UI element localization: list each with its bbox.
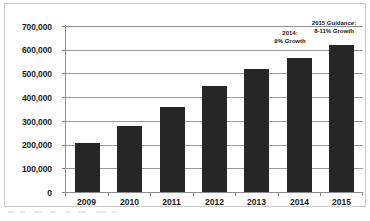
y-axis-label-0: 0 [0, 188, 52, 198]
bar-2015 [329, 45, 354, 193]
scan-artifact [6, 209, 186, 217]
y-tick-300000 [62, 121, 66, 122]
gridline-600000 [66, 50, 363, 51]
annotation-2015-line2: 8-11% Growth [300, 27, 368, 35]
y-axis-label-100000: 100,000 [0, 164, 52, 174]
y-axis-label-700000: 700,000 [0, 22, 52, 32]
x-axis-label-2014: 2014 [278, 197, 321, 207]
x-tick-7 [362, 193, 363, 196]
y-axis-label-500000: 500,000 [0, 69, 52, 79]
y-axis-label-600000: 600,000 [0, 45, 52, 55]
bar-2012 [202, 86, 227, 192]
x-tick-6 [320, 193, 321, 196]
x-axis-label-2011: 2011 [150, 197, 193, 207]
bar-2014 [287, 58, 312, 192]
y-axis-label-400000: 400,000 [0, 93, 52, 103]
annotation-2015-guidance: 2015 Guidance: 8-11% Growth [300, 19, 368, 35]
y-axis-label-200000: 200,000 [0, 140, 52, 150]
y-tick-700000 [62, 26, 66, 27]
x-tick-4 [235, 193, 236, 196]
annotation-2014-line2: 9% Growth [264, 37, 316, 45]
bar-2010 [117, 126, 142, 192]
x-axis-line [65, 192, 363, 193]
annotation-2015-line1: 2015 Guidance: [300, 19, 368, 27]
plot-area [66, 26, 363, 192]
gridline-500000 [66, 73, 363, 74]
x-tick-3 [193, 193, 194, 196]
x-axis-label-2013: 2013 [235, 197, 278, 207]
y-tick-100000 [62, 168, 66, 169]
x-axis-label-2012: 2012 [193, 197, 236, 207]
x-axis-label-2010: 2010 [108, 197, 151, 207]
y-tick-400000 [62, 97, 66, 98]
x-axis-label-2015: 2015 [320, 197, 363, 207]
bar-2011 [160, 107, 185, 192]
y-axis-label-300000: 300,000 [0, 117, 52, 127]
x-tick-5 [278, 193, 279, 196]
y-tick-200000 [62, 145, 66, 146]
x-tick-1 [108, 193, 109, 196]
x-tick-2 [150, 193, 151, 196]
bar-2013 [244, 69, 269, 192]
x-axis-label-2009: 2009 [65, 197, 108, 207]
y-tick-600000 [62, 50, 66, 51]
bar-2009 [75, 143, 100, 192]
x-tick-0 [65, 193, 66, 196]
y-tick-500000 [62, 73, 66, 74]
